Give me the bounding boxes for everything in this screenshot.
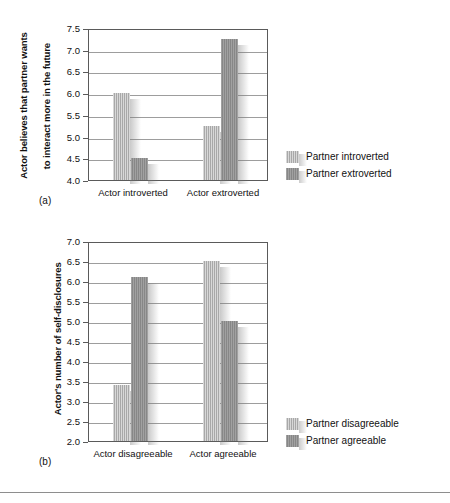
y-axis-tick (83, 29, 88, 30)
x-axis-category-label: Actor disagreeable (88, 448, 178, 459)
y-axis-tick (83, 282, 88, 283)
y-axis-tick (83, 382, 88, 383)
y-axis-tick (83, 116, 88, 117)
y-axis-tick (83, 422, 88, 423)
panel-b-letter: (b) (39, 456, 51, 467)
legend-item: Partner agreeable (286, 432, 399, 449)
y-axis-tick (83, 302, 88, 303)
y-axis-tick-label: 7.5 (36, 23, 80, 34)
gridline (89, 283, 267, 284)
panel-b-legend: Partner disagreeable Partner agreeable (286, 415, 399, 449)
bar (113, 385, 130, 441)
panel-b-plot-area (88, 242, 268, 442)
gridline (89, 52, 267, 53)
gridline (89, 303, 267, 304)
legend-swatch-icon (286, 168, 299, 180)
panel-a-y-axis-title-line1: Actor believes that partner wants (18, 32, 29, 179)
panel-b: Actor's number of self-disclosures 2.02.… (0, 228, 450, 478)
legend-item-label: Partner agreeable (306, 435, 386, 446)
panel-a-plot-area (88, 29, 268, 181)
gridline (89, 363, 267, 364)
y-axis-tick-label: 6.5 (36, 66, 80, 77)
figure-bottom-rule (0, 492, 450, 493)
y-axis-tick-label: 5.5 (36, 110, 80, 121)
y-axis-tick-label: 6.5 (36, 256, 80, 267)
bar (131, 277, 148, 441)
legend-item-label: Partner introverted (306, 151, 389, 162)
y-axis-tick-label: 5.0 (36, 316, 80, 327)
legend-item-label: Partner disagreeable (306, 418, 399, 429)
y-axis-tick-label: 2.5 (36, 416, 80, 427)
legend-item: Partner disagreeable (286, 415, 399, 432)
y-axis-tick-label: 3.5 (36, 376, 80, 387)
bar (203, 126, 220, 180)
y-axis-tick (83, 322, 88, 323)
y-axis-tick-label: 7.0 (36, 236, 80, 247)
bar (131, 158, 148, 180)
bar (113, 93, 130, 180)
gridline (89, 343, 267, 344)
y-axis-tick (83, 442, 88, 443)
y-axis-tick (83, 242, 88, 243)
y-axis-tick (83, 402, 88, 403)
x-axis-category-label: Actor introverted (88, 187, 178, 198)
y-axis-tick-label: 4.0 (36, 356, 80, 367)
y-axis-tick-label: 6.0 (36, 88, 80, 99)
y-axis-tick (83, 362, 88, 363)
gridline (89, 263, 267, 264)
gridline (89, 383, 267, 384)
figure-container: Actor believes that partner wants to int… (0, 0, 450, 503)
bar (221, 321, 238, 441)
panel-a-letter: (a) (39, 195, 51, 206)
y-axis-tick-label: 4.5 (36, 336, 80, 347)
y-axis-tick (83, 342, 88, 343)
legend-swatch-icon (286, 151, 299, 163)
y-axis-tick (83, 51, 88, 52)
panel-a-legend: Partner introverted Partner extroverted (286, 148, 392, 182)
y-axis-tick-label: 6.0 (36, 276, 80, 287)
y-axis-tick-label: 4.5 (36, 153, 80, 164)
y-axis-tick-label: 7.0 (36, 45, 80, 56)
y-axis-tick-label: 4.0 (36, 175, 80, 186)
y-axis-tick (83, 262, 88, 263)
legend-swatch-icon (286, 435, 299, 447)
legend-item-label: Partner extroverted (306, 168, 392, 179)
y-axis-tick-label: 2.0 (36, 436, 80, 447)
y-axis-tick (83, 94, 88, 95)
legend-item: Partner extroverted (286, 165, 392, 182)
bar (203, 261, 220, 441)
y-axis-tick-label: 5.5 (36, 296, 80, 307)
panel-a-y-axis-title-line2: to interact more in the future (41, 43, 52, 169)
x-axis-category-label: Actor agreeable (178, 448, 268, 459)
y-axis-tick (83, 138, 88, 139)
y-axis-tick-label: 5.0 (36, 132, 80, 143)
bar (221, 39, 238, 180)
gridline (89, 74, 267, 75)
y-axis-tick (83, 72, 88, 73)
y-axis-tick (83, 181, 88, 182)
legend-item: Partner introverted (286, 148, 392, 165)
legend-swatch-icon (286, 418, 299, 430)
y-axis-tick (83, 159, 88, 160)
gridline (89, 323, 267, 324)
y-axis-tick-label: 3.0 (36, 396, 80, 407)
x-axis-category-label: Actor extroverted (178, 187, 268, 198)
panel-a: Actor believes that partner wants to int… (0, 0, 450, 220)
